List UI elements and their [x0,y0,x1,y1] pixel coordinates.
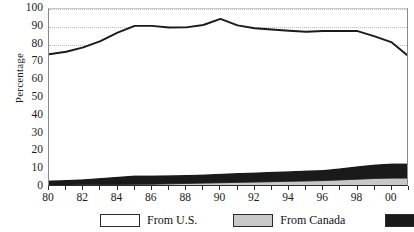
legend-label-from-canada: From Canada [280,213,345,228]
y-axis-tick-label: 90 [1,20,43,31]
x-axis-tick-label: 96 [307,191,337,203]
x-axis-tick-label: 88 [170,191,200,203]
y-axis-tick-label: 80 [1,38,43,49]
x-axis-tick-mark [185,186,186,190]
x-axis-tick-mark [117,186,118,190]
x-axis-tick-label: 86 [136,191,166,203]
y-axis-tick-label: 10 [1,162,43,173]
legend-swatch-from-mexico [385,214,414,227]
x-axis-tick-mark [134,186,135,190]
x-axis-tick-mark [271,186,272,190]
x-axis-tick-mark [288,186,289,190]
y-axis-tick-label: 100 [1,2,43,13]
x-axis-tick-mark [357,186,358,190]
legend-swatch-from-us [100,214,140,227]
x-axis-tick-mark [82,186,83,190]
x-axis-tick-label: 00 [376,191,406,203]
legend-item-from-canada[interactable]: From Canada [233,213,345,228]
series-layer [49,9,408,186]
y-axis-tick-label: 30 [1,127,43,138]
legend-label-from-us: From U.S. [147,213,197,228]
y-axis-tick-label: 70 [1,55,43,66]
x-axis-tick-label: 82 [67,191,97,203]
x-axis-tick-mark [305,186,306,190]
y-axis-tick-label: 40 [1,109,43,120]
x-axis-tick-mark [48,186,49,190]
x-axis-tick-mark [168,186,169,190]
x-axis-tick-mark [254,186,255,190]
x-axis-tick-label: 84 [102,191,132,203]
x-axis-tick-label: 90 [204,191,234,203]
area-from-us [49,19,408,181]
x-axis-tick-mark [339,186,340,190]
y-axis-tick-label: 60 [1,73,43,84]
x-axis-tick-mark [322,186,323,190]
x-axis-tick-mark [65,186,66,190]
legend-item-from-us[interactable]: From U.S. [100,213,197,228]
legend-item-from-mexico[interactable]: From Mexico [385,213,414,228]
x-axis-tick-label: 98 [342,191,372,203]
y-axis-tick-label: 50 [1,91,43,102]
plot-area [48,8,408,186]
x-axis-tick-mark [374,186,375,190]
legend-swatch-from-canada [233,214,273,227]
x-axis-tick-mark [151,186,152,190]
x-axis-tick-mark [237,186,238,190]
x-axis-tick-mark [219,186,220,190]
x-axis-tick-label: 80 [33,191,63,203]
stacked-area-chart: Percentage 1009080706050403020100 808284… [0,0,414,232]
chart-legend: From U.S. From Canada From Mexico [48,211,408,230]
x-axis-tick-mark [99,186,100,190]
x-axis-tick-mark [391,186,392,190]
y-axis-tick-label: 20 [1,144,43,155]
x-axis-tick-labels: 8082848688909294969800 [0,191,414,209]
x-axis-tick-label: 92 [239,191,269,203]
y-axis-tick-label: 0 [1,180,43,191]
x-axis-tick-mark [202,186,203,190]
x-axis-tick-mark [408,186,409,190]
x-axis-tick-label: 94 [273,191,303,203]
